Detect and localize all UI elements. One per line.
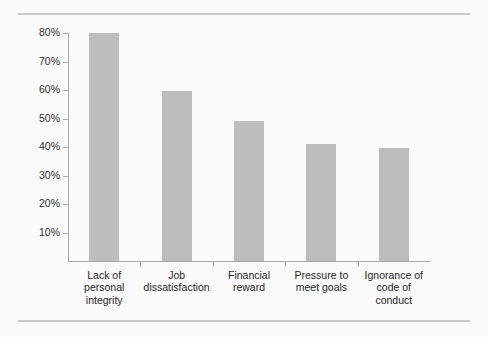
y-axis-tick-label-text: 30%	[26, 170, 60, 181]
x-axis-tick	[285, 262, 286, 267]
y-axis-tick	[63, 176, 68, 177]
y-axis-tick	[63, 204, 68, 205]
y-axis-tick-label-text: 40%	[26, 141, 60, 152]
bottom-divider-rule	[18, 320, 470, 322]
y-axis-tick-label-text: 80%	[26, 27, 60, 38]
x-axis-category-label-line: integrity	[61, 294, 147, 306]
y-axis-tick-label: 40%	[22, 141, 60, 152]
y-axis-tick	[63, 33, 68, 34]
y-axis-tick-label-text: 20%	[26, 198, 60, 209]
x-axis-category-label-line: code of	[351, 281, 437, 293]
bar-chart-plot-area: 10%20%30%40%50%60%70%80% Lack ofpersonal…	[0, 0, 488, 337]
y-axis-tick-label: 20%	[22, 198, 60, 209]
y-axis-tick	[63, 147, 68, 148]
bar	[379, 148, 409, 261]
y-axis-tick-label-text: 10%	[26, 227, 60, 238]
x-axis-tick	[213, 262, 214, 267]
y-axis-tick-label-text: 70%	[26, 56, 60, 67]
x-axis-category-label: Ignorance ofcode ofconduct	[351, 269, 437, 306]
bar	[234, 121, 264, 261]
y-axis-tick-label: 60%	[22, 84, 60, 95]
bar	[89, 33, 119, 261]
x-axis-category-label-line: conduct	[351, 294, 437, 306]
figure: 10%20%30%40%50%60%70%80% Lack ofpersonal…	[0, 0, 488, 337]
x-axis-line	[68, 261, 430, 262]
x-axis-tick	[140, 262, 141, 267]
y-axis-tick	[63, 233, 68, 234]
x-axis-tick	[358, 262, 359, 267]
bar	[306, 144, 336, 261]
y-axis-tick-label-text: 50%	[26, 113, 60, 124]
y-axis-tick-label: 30%	[22, 170, 60, 181]
y-axis-tick	[63, 90, 68, 91]
y-axis-tick-label: 70%	[22, 56, 60, 67]
y-axis-tick	[63, 62, 68, 63]
y-axis-tick	[63, 119, 68, 120]
y-axis-tick-label-text: 60%	[26, 84, 60, 95]
y-axis-tick-label: 80%	[22, 27, 60, 38]
y-axis-tick-label: 10%	[22, 227, 60, 238]
bar	[162, 91, 192, 261]
y-axis-line	[68, 33, 69, 262]
y-axis-tick-label: 50%	[22, 113, 60, 124]
x-axis-category-label-line: Ignorance of	[351, 269, 437, 281]
